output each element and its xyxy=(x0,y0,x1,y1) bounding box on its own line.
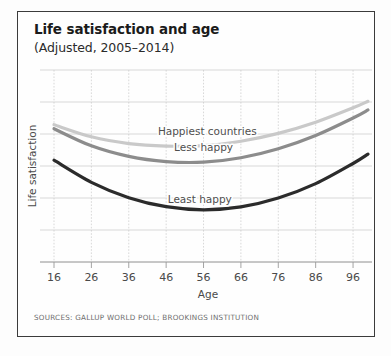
grid-lines xyxy=(40,70,372,262)
chart-plot: 162636465666768696 Happiest countriesHap… xyxy=(0,0,391,356)
x-tick-labels: 162636465666768696 xyxy=(47,271,360,284)
x-tick-label: 86 xyxy=(309,271,323,284)
series-inline-labels: Happiest countriesHappiest countriesLess… xyxy=(158,125,257,205)
figure-root: Life satisfaction and age (Adjusted, 200… xyxy=(0,0,391,356)
x-tick-label: 26 xyxy=(84,271,98,284)
x-tick-label: 46 xyxy=(159,271,173,284)
x-tick-label: 16 xyxy=(47,271,61,284)
y-axis-title: Life satisfaction xyxy=(26,125,38,208)
x-tick-label: 56 xyxy=(197,271,211,284)
x-tick-label: 96 xyxy=(346,271,360,284)
x-tick-label: 66 xyxy=(234,271,248,284)
series-label: Least happy xyxy=(168,193,232,205)
series-label: Less happy xyxy=(174,141,233,153)
series-line xyxy=(54,101,368,146)
x-axis-title: Age xyxy=(198,288,218,300)
source-note: SOURCES: GALLUP WORLD POLL; BROOKINGS IN… xyxy=(34,313,259,322)
series-label: Happiest countries xyxy=(158,125,257,137)
x-tick-label: 36 xyxy=(122,271,136,284)
axis-lines xyxy=(40,262,372,268)
x-tick-label: 76 xyxy=(271,271,285,284)
